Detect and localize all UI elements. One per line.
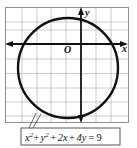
equation-equals: = — [88, 132, 94, 143]
y-axis-label: y — [84, 7, 90, 18]
equation-plus-3: + — [69, 132, 75, 143]
coordinate-graph-figure: x y O x2+y2+2x+4y=9 — [0, 0, 137, 148]
equation-term-4y: 4y — [77, 132, 87, 143]
plot-area-background — [6, 8, 129, 123]
equation-plus-2: + — [50, 132, 56, 143]
origin-label: O — [64, 44, 71, 55]
equation-exp-y: 2 — [45, 131, 49, 139]
equation-value: 9 — [96, 132, 101, 143]
figure-container: x y O x2+y2+2x+4y=9 — [0, 0, 137, 148]
equation-term-2x: 2x — [58, 132, 68, 143]
equation-text: x2+y2+2x+4y=9 — [24, 131, 102, 142]
equation-plus-1: + — [33, 132, 39, 143]
x-axis-label: x — [121, 43, 127, 54]
